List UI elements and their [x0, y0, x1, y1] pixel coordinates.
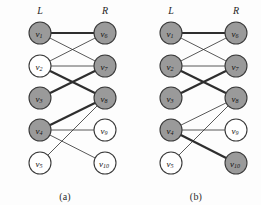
right-side-label: R — [101, 5, 108, 16]
right-side-label: R — [232, 5, 239, 16]
figure-bipartite-graph-pair: LRv1v2v3v4v5v6v7v8v9v10 (a) LRv1v2v3v4v5… — [0, 0, 261, 205]
panel-a: LRv1v2v3v4v5v6v7v8v9v10 (a) — [0, 0, 130, 205]
panel-b-caption: (b) — [131, 191, 261, 202]
panel-a-caption: (a) — [0, 191, 130, 202]
left-side-label: L — [167, 5, 174, 16]
panel-b: LRv1v2v3v4v5v6v7v8v9v10 (b) — [131, 0, 261, 205]
graph-svg-b: LRv1v2v3v4v5v6v7v8v9v10 — [131, 0, 261, 205]
left-side-label: L — [36, 5, 43, 16]
graph-svg-a: LRv1v2v3v4v5v6v7v8v9v10 — [0, 0, 130, 205]
